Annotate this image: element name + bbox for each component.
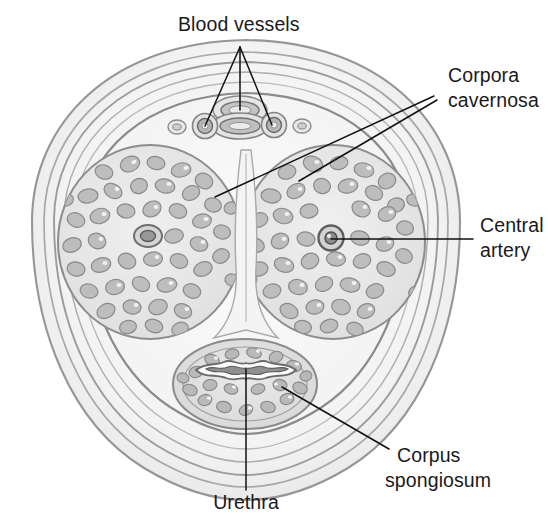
corpus-spongiosum (173, 339, 317, 429)
label-corpora-cavernosa-line1: Corpora (448, 64, 519, 86)
label-corpus-spongiosum-line1: Corpus (397, 444, 461, 466)
superficial-dorsal-vein-left (168, 120, 186, 134)
superficial-dorsal-vein-right (293, 119, 311, 133)
label-corpus-spongiosum-line2: spongiosum (385, 469, 491, 491)
dorsal-artery-right (262, 113, 287, 138)
corpus-cavernosum-left (55, 145, 242, 339)
label-corpora-cavernosa-line2: cavernosa (448, 89, 539, 111)
central-artery-right (319, 226, 344, 251)
corpus-cavernosum-right (241, 145, 425, 339)
label-central-artery-line2: artery (480, 239, 531, 261)
central-artery-left (134, 225, 162, 247)
deep-dorsal-vein-lower (212, 113, 268, 139)
anatomy-figure: Blood vessels Corpora cavernosa Central … (0, 0, 548, 514)
label-urethra: Urethra (213, 491, 279, 513)
label-central-artery-line1: Central (480, 214, 544, 236)
cross-section-illustration: Blood vessels Corpora cavernosa Central … (0, 0, 548, 514)
label-blood-vessels: Blood vessels (178, 13, 300, 35)
